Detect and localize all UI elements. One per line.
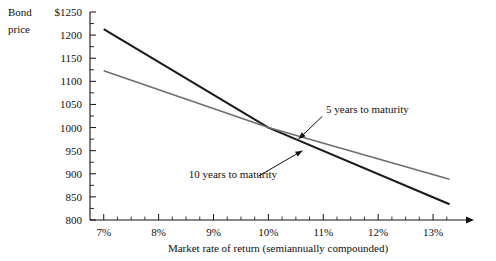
x-tick-label: 13% bbox=[423, 226, 443, 238]
x-tick-label: 12% bbox=[368, 226, 388, 238]
series-line bbox=[104, 71, 450, 180]
y-tick-label: 1050 bbox=[60, 98, 83, 110]
x-tick-label: 9% bbox=[206, 226, 221, 238]
y-axis-ticks bbox=[90, 12, 96, 220]
chart-svg: $125012001150110010501000950900850800 7%… bbox=[0, 0, 496, 261]
series-annotation-label: 5 years to maturity bbox=[326, 103, 409, 115]
y-axis-title-line2: price bbox=[8, 23, 30, 35]
y-tick-label: 1150 bbox=[60, 52, 82, 64]
y-axis-tick-labels: $125012001150110010501000950900850800 bbox=[55, 6, 83, 226]
x-tick-label: 7% bbox=[96, 226, 111, 238]
x-tick-label: 10% bbox=[258, 226, 278, 238]
x-tick-label: 8% bbox=[151, 226, 166, 238]
y-tick-label: 1200 bbox=[60, 29, 83, 41]
x-axis-ticks bbox=[104, 214, 447, 220]
series-annotation-label: 10 years to maturity bbox=[189, 168, 278, 180]
x-axis-tick-labels: 7%8%9%10%11%12%13% bbox=[96, 226, 443, 238]
y-tick-label: 900 bbox=[66, 168, 83, 180]
y-tick-label: 850 bbox=[66, 191, 83, 203]
x-axis-title: Market rate of return (semiannually comp… bbox=[168, 242, 389, 255]
x-axis-arrow-icon bbox=[466, 217, 474, 224]
y-tick-label: 1100 bbox=[60, 75, 82, 87]
y-tick-label: $1250 bbox=[55, 6, 83, 18]
y-tick-label: 800 bbox=[66, 214, 83, 226]
bond-price-chart: $125012001150110010501000950900850800 7%… bbox=[0, 0, 496, 261]
y-tick-label: 1000 bbox=[60, 122, 83, 134]
y-tick-label: 950 bbox=[66, 145, 83, 157]
x-tick-label: 11% bbox=[313, 226, 333, 238]
y-axis-title-line1: Bond bbox=[8, 6, 32, 18]
annotation-arrowhead-icon bbox=[295, 151, 302, 157]
